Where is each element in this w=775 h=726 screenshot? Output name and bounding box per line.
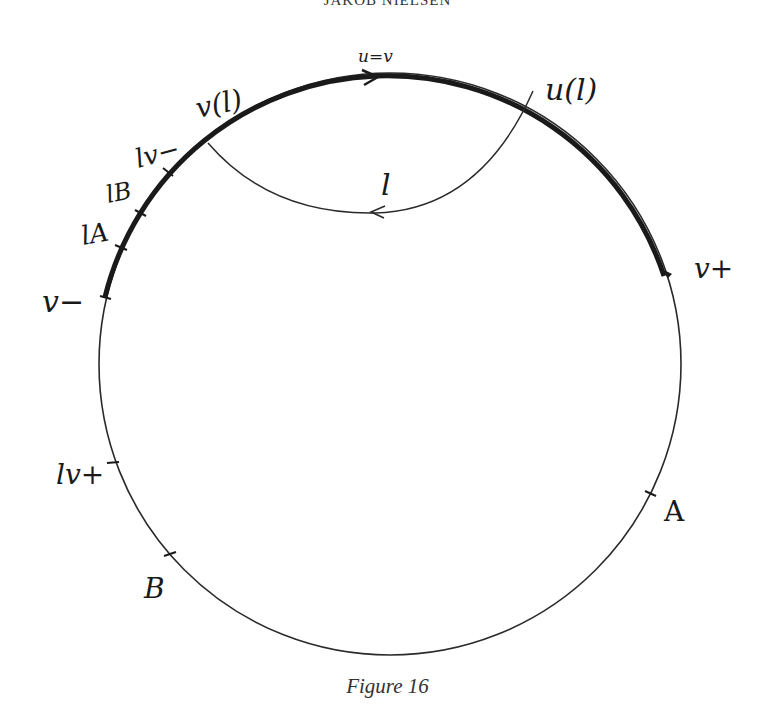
label-v-minus: v− bbox=[42, 284, 84, 319]
label-l: l bbox=[381, 167, 391, 202]
label-B: B bbox=[143, 572, 165, 605]
label-u-l: u(l) bbox=[545, 72, 597, 107]
tick-lv-plus bbox=[107, 462, 119, 463]
label-lv-plus: lv+ bbox=[56, 458, 104, 491]
tick-marks bbox=[100, 168, 656, 556]
figure-diagram: u=v u(l) v(l) lv− lB lA v− v+ lv+ A B l bbox=[0, 0, 775, 726]
label-A: A bbox=[663, 495, 685, 528]
figure-caption: Figure 16 bbox=[0, 674, 775, 699]
label-v-plus: v+ bbox=[694, 252, 733, 285]
label-l-A: lA bbox=[79, 217, 111, 251]
label-l-B: lB bbox=[103, 176, 134, 209]
label-u-eq-v: u=v bbox=[358, 46, 393, 66]
